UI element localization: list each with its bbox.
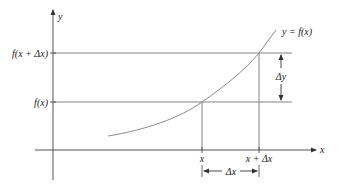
function-increment-diagram: y x y = f(x) f(x + Δx) f(x) x x + Δx Δy … <box>0 0 348 189</box>
y-axis-label: y <box>57 11 63 22</box>
x-axis-label: x <box>319 144 325 155</box>
curve-label: y = f(x) <box>281 26 313 38</box>
function-curve <box>108 30 276 136</box>
y-tick-label-f-x: f(x) <box>34 97 49 109</box>
delta-x-label: Δx <box>225 166 237 177</box>
x-tick-label-x-plus-dx: x + Δx <box>245 153 273 164</box>
delta-y-label: Δy <box>275 71 287 82</box>
x-tick-label-x: x <box>199 153 205 164</box>
y-tick-label-f-x-plus-dx: f(x + Δx) <box>12 48 49 60</box>
